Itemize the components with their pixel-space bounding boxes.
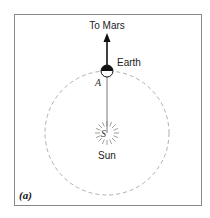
- point-a-label: A: [94, 77, 102, 88]
- figure-frame: [15, 15, 202, 206]
- earth-mars-diagram: To Mars Earth A S Sun (a): [0, 0, 210, 218]
- earth-icon: [101, 65, 113, 77]
- point-s-label: S: [101, 128, 106, 139]
- to-mars-label: To Mars: [89, 20, 125, 31]
- sun-label: Sun: [98, 150, 116, 161]
- panel-label: (a): [19, 189, 32, 202]
- earth-label: Earth: [117, 57, 141, 68]
